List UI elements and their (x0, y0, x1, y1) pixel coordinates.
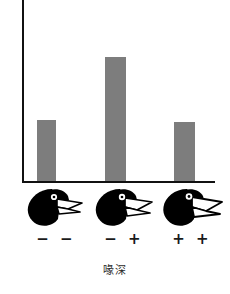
finch-head-icon-small-beak (24, 186, 88, 228)
bar-minus-plus (105, 57, 126, 181)
bars-layer (0, 0, 230, 181)
plot-area (0, 0, 230, 190)
x-axis-line (22, 181, 215, 183)
genotype-label-plus-plus: + + (160, 230, 224, 248)
finch-head-icon-medium-beak (92, 186, 156, 228)
bar-minus-minus (37, 120, 56, 181)
genotype-label-minus-minus: − − (24, 230, 88, 248)
bar-plus-plus (174, 122, 195, 181)
genotype-label-row: − − − + + + (22, 230, 215, 248)
finch-head-icon-large-beak (160, 186, 224, 228)
beak-depth-bar-chart-figure: − − − + + + 喙深 (0, 0, 230, 294)
genotype-label-minus-plus: − + (92, 230, 156, 248)
x-axis-title: 喙深 (0, 261, 230, 277)
finch-icon-row (22, 186, 215, 228)
